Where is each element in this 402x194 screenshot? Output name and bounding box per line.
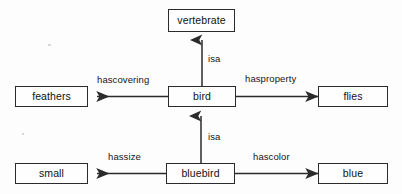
node-label-small: small	[39, 168, 64, 179]
edge-label-bluebird-hascolor: hascolor	[253, 152, 290, 162]
scan-speck	[48, 44, 51, 46]
edge-label-bird-hascovering: hascovering	[97, 75, 149, 85]
node-feathers[interactable]: feathers	[15, 86, 88, 107]
node-label-flies: flies	[343, 91, 362, 102]
node-label-vertebrate: vertebrate	[177, 15, 225, 26]
edge-label-bluebird-isa-bird: isa	[208, 132, 220, 142]
node-label-blue: blue	[343, 168, 363, 179]
node-label-bird: bird	[193, 91, 211, 102]
node-small[interactable]: small	[15, 163, 88, 184]
node-bird[interactable]: bird	[168, 86, 236, 107]
node-label-feathers: feathers	[32, 91, 71, 102]
edge-label-bluebird-hassize: hassize	[108, 152, 141, 162]
node-blue[interactable]: blue	[318, 163, 388, 184]
edge-label-bird-isa-vertebrate: isa	[208, 54, 220, 64]
node-vertebrate[interactable]: vertebrate	[168, 9, 235, 32]
node-bluebird[interactable]: bluebird	[166, 163, 235, 184]
node-label-bluebird: bluebird	[181, 168, 219, 179]
scan-speck	[22, 133, 24, 135]
node-flies[interactable]: flies	[318, 86, 388, 107]
edge-label-bird-hasproperty: hasproperty	[245, 74, 296, 84]
semantic-network-diagram: vertebrate (isa) --> bird (isa) --> feat…	[0, 0, 402, 194]
